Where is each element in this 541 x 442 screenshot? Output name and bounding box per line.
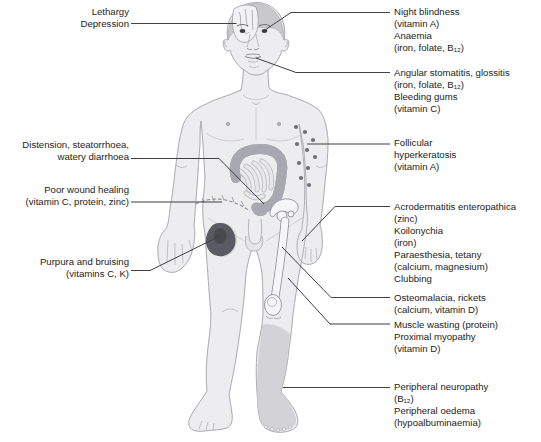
label-line: (calcium, vitamin D) [394,304,486,316]
label-line: Follicular [394,137,456,149]
nipple-right [277,122,280,125]
label-line: (vitamin C) [394,103,510,115]
label-follicular-hyperkeratosis: Follicular hyperkeratosis (vitamin A) [394,137,456,173]
label-line: Koilonychia [394,225,516,237]
eye-right [262,29,268,33]
label-line: (vitamin C, protein, zinc) [26,196,129,208]
patella [268,298,277,307]
label-line: Muscle wasting (protein) [394,319,498,331]
label-line: (iron, folate, B₁₂) [394,42,464,54]
leader-muscle-wasting [288,278,390,324]
label-line: (iron) [394,237,516,249]
label-line: (vitamin A) [394,18,464,30]
label-line: Lethargy [80,6,129,18]
label-muscle-wasting: Muscle wasting (protein) Proximal myopat… [394,319,498,355]
label-line: Peripheral neuropathy [394,381,488,393]
label-line: (iron, folate, B₁₂) [394,79,510,91]
label-line: Angular stomatitis, glossitis [394,67,510,79]
thigh-bruise [206,223,237,257]
label-line: Bleeding gums [394,91,510,103]
label-line: Clubbing [394,273,516,285]
label-line: Peripheral oedema [394,405,488,417]
label-purpura-bruising: Purpura and bruising (vitamins C, K) [40,256,129,280]
label-line: (calcium, magnesium) [394,261,516,273]
label-line: Depression [80,18,129,30]
label-line: watery diarrhoea [22,151,129,163]
label-line: Paraesthesia, tetany [394,249,516,261]
label-line: (vitamins C, K) [40,268,129,280]
label-osteomalacia: Osteomalacia, rickets (calcium, vitamin … [394,292,486,316]
label-line: (hypoalbuminaemia) [394,417,488,429]
label-night-blindness-anaemia: Night blindness (vitamin A) Anaemia (iro… [394,6,464,54]
label-peripheral-neuropathy: Peripheral neuropathy (B₁₂) Peripheral o… [394,381,488,429]
diagram-canvas: Lethargy Depression Distension, steatorr… [0,0,541,442]
label-line: Night blindness [394,6,464,18]
label-line: (zinc) [394,213,516,225]
label-angular-stomatitis: Angular stomatitis, glossitis (iron, fol… [394,67,510,115]
label-distension: Distension, steatorrhoea, watery diarrho… [22,139,129,163]
eye-left [240,29,246,33]
label-lethargy-depression: Lethargy Depression [80,6,129,30]
head [223,3,289,76]
label-line: Acrodermatitis enteropathica [394,201,516,213]
label-acrodermatitis: Acrodermatitis enteropathica (zinc) Koil… [394,201,516,285]
label-line: Poor wound healing [26,184,129,196]
label-line: hyperkeratosis [394,149,456,161]
label-line: Distension, steatorrhoea, [22,139,129,151]
label-line: Anaemia [394,30,464,42]
label-line: (vitamin A) [394,161,456,173]
nipple-left [226,122,229,125]
body-silhouette [158,64,328,432]
label-line: Proximal myopathy [394,331,498,343]
label-line: (vitamin D) [394,343,498,355]
label-line: Osteomalacia, rickets [394,292,486,304]
label-poor-wound-healing: Poor wound healing (vitamin C, protein, … [26,184,129,208]
label-line: (B₁₂) [394,393,488,405]
label-line: Purpura and bruising [40,256,129,268]
